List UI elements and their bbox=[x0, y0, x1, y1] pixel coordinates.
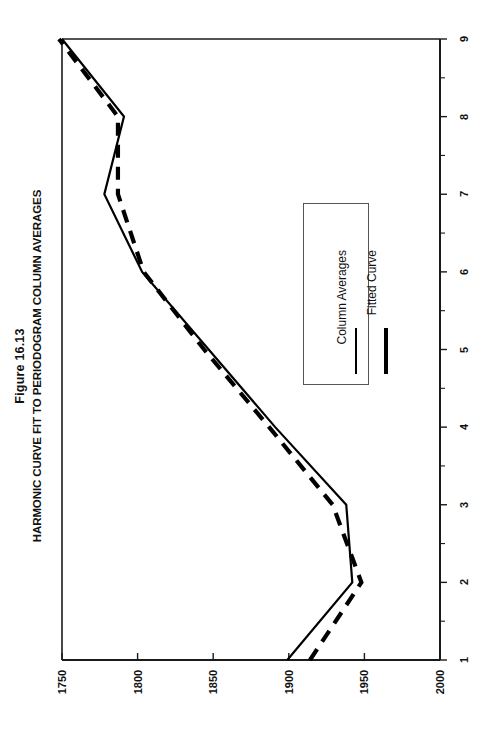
value-tick-label: 2000 bbox=[434, 660, 446, 704]
category-tick-label: 5 bbox=[458, 340, 470, 360]
figure-root: Figure 16.13 HARMONIC CURVE FIT TO PERIO… bbox=[0, 0, 487, 731]
legend-label: Fitted Curve bbox=[365, 250, 379, 360]
category-tick-label: 2 bbox=[458, 572, 470, 592]
category-tick-label: 3 bbox=[458, 495, 470, 515]
value-tick-label: 1900 bbox=[283, 660, 295, 704]
category-tick-label: 4 bbox=[458, 417, 470, 437]
category-tick-label: 6 bbox=[458, 262, 470, 282]
value-tick-label: 1800 bbox=[132, 660, 144, 704]
value-tick-label: 1950 bbox=[358, 660, 370, 704]
category-tick-label: 8 bbox=[458, 107, 470, 127]
value-tick-label: 1750 bbox=[56, 660, 68, 704]
category-tick-label: 9 bbox=[458, 29, 470, 49]
category-tick-label: 1 bbox=[458, 650, 470, 670]
chart-legend: Column AveragesFitted Curve bbox=[303, 203, 369, 385]
category-axis-ticks bbox=[440, 39, 447, 660]
legend-entry: Fitted Curve bbox=[344, 212, 428, 378]
category-tick-label: 7 bbox=[458, 184, 470, 204]
legend-dashed-swatch bbox=[384, 328, 388, 374]
value-tick-label: 1850 bbox=[207, 660, 219, 704]
value-axis-ticks bbox=[62, 653, 440, 660]
